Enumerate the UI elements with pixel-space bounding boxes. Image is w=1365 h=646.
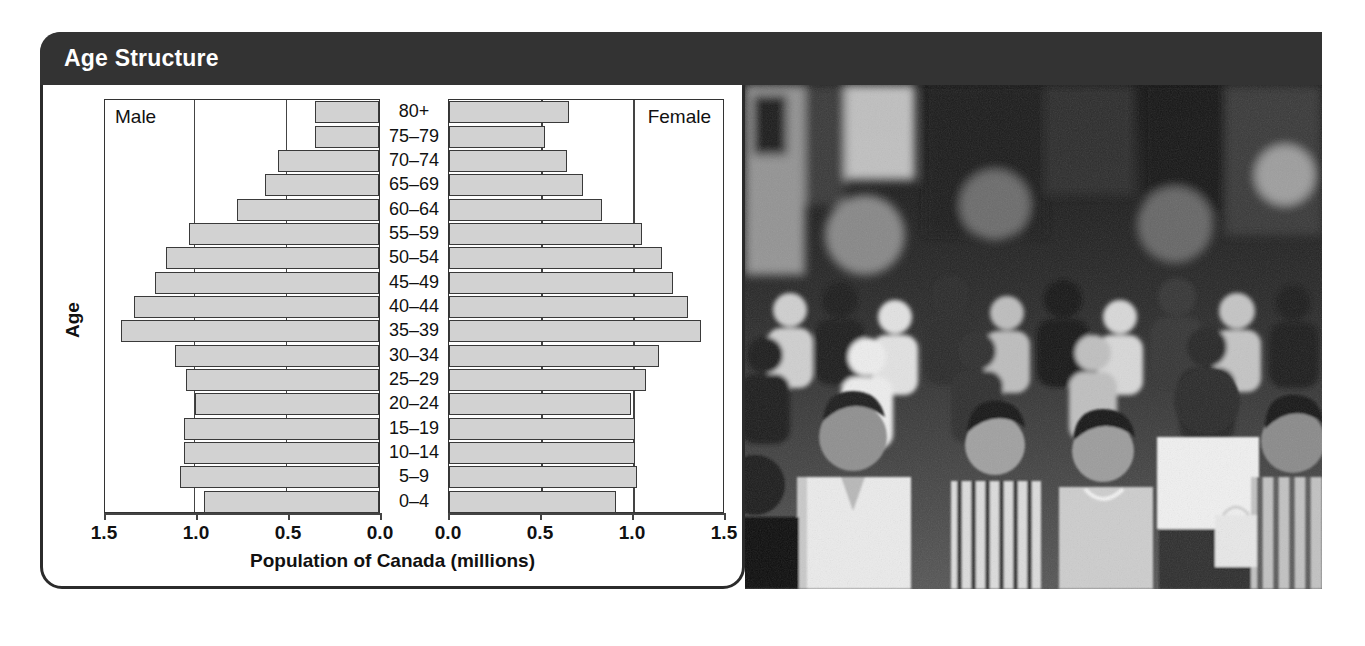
age-label-35–39: 35–39 [380, 319, 448, 341]
tick-female-1.5 [724, 513, 726, 520]
bar-male-0–4 [204, 491, 379, 513]
bar-male-15–19 [184, 418, 379, 440]
tick-female-1.0 [632, 513, 634, 520]
age-label-65–69: 65–69 [380, 173, 448, 195]
tick-female-0.0 [448, 513, 450, 520]
bar-male-30–34 [175, 345, 379, 367]
age-label-75–79: 75–79 [380, 125, 448, 147]
age-label-45–49: 45–49 [380, 271, 448, 293]
tick-female-0.5 [540, 513, 542, 520]
bar-female-35–39 [449, 320, 701, 342]
age-label-0–4: 0–4 [380, 490, 448, 512]
female-plot-area: Female [448, 99, 724, 513]
bar-male-70–74 [278, 150, 379, 172]
ticklabel-female-0.0: 0.0 [418, 522, 478, 544]
bar-male-60–64 [237, 199, 379, 221]
bar-female-60–64 [449, 199, 602, 221]
header-band: Age Structure [40, 32, 1322, 85]
bar-female-15–19 [449, 418, 635, 440]
tick-male-1.5 [104, 513, 106, 520]
age-label-50–54: 50–54 [380, 246, 448, 268]
bar-male-25–29 [186, 369, 379, 391]
bar-male-20–24 [195, 393, 379, 415]
bar-female-70–74 [449, 150, 567, 172]
male-legend-label: Male [115, 106, 156, 128]
bar-female-0–4 [449, 491, 616, 513]
bar-female-75–79 [449, 126, 545, 148]
bar-female-55–59 [449, 223, 642, 245]
bar-male-35–39 [121, 320, 379, 342]
bar-female-25–29 [449, 369, 646, 391]
age-label-25–29: 25–29 [380, 368, 448, 390]
age-label-80+: 80+ [380, 100, 448, 122]
age-label-15–19: 15–19 [380, 417, 448, 439]
bar-female-40–44 [449, 296, 688, 318]
ticklabel-female-1.0: 1.0 [602, 522, 662, 544]
tick-male-0.0 [380, 513, 382, 520]
ticklabel-male-0.0: 0.0 [350, 522, 410, 544]
bar-female-65–69 [449, 174, 583, 196]
male-plot-area: Male [104, 99, 380, 513]
bar-female-20–24 [449, 393, 631, 415]
ticklabel-male-1.0: 1.0 [166, 522, 226, 544]
age-label-70–74: 70–74 [380, 149, 448, 171]
bar-male-5–9 [180, 466, 379, 488]
bar-female-10–14 [449, 442, 635, 464]
ticklabel-female-0.5: 0.5 [510, 522, 570, 544]
bar-male-65–69 [265, 174, 379, 196]
tick-male-0.5 [288, 513, 290, 520]
x-axis-right [448, 513, 725, 515]
age-labels-column: 80+75–7970–7465–6960–6455–5950–5445–4940… [380, 99, 448, 513]
page-title: Age Structure [64, 45, 219, 72]
y-axis-title: Age [62, 275, 84, 365]
bar-male-55–59 [189, 223, 379, 245]
tick-male-1.0 [196, 513, 198, 520]
age-label-10–14: 10–14 [380, 441, 448, 463]
bar-male-40–44 [134, 296, 379, 318]
figure-container: Age Structure Age Population of Canada (… [40, 32, 1322, 589]
age-label-20–24: 20–24 [380, 392, 448, 414]
bar-male-45–49 [155, 272, 379, 294]
bar-female-5–9 [449, 466, 637, 488]
x-axis-title: Population of Canada (millions) [40, 550, 745, 572]
x-axis-left [104, 513, 381, 515]
bar-female-50–54 [449, 247, 662, 269]
bar-female-30–34 [449, 345, 659, 367]
bar-male-10–14 [184, 442, 379, 464]
bar-male-50–54 [166, 247, 379, 269]
bar-male-75–79 [315, 126, 379, 148]
ticklabel-male-1.5: 1.5 [74, 522, 134, 544]
female-legend-label: Female [648, 106, 711, 128]
bar-female-80+ [449, 101, 569, 123]
bar-female-45–49 [449, 272, 673, 294]
age-label-5–9: 5–9 [380, 465, 448, 487]
age-label-30–34: 30–34 [380, 344, 448, 366]
age-label-60–64: 60–64 [380, 198, 448, 220]
population-pyramid-chart: Age Population of Canada (millions) Male… [40, 85, 745, 589]
age-label-40–44: 40–44 [380, 295, 448, 317]
ticklabel-male-0.5: 0.5 [258, 522, 318, 544]
age-label-55–59: 55–59 [380, 222, 448, 244]
crowd-photograph [745, 85, 1322, 589]
bar-male-80+ [315, 101, 379, 123]
